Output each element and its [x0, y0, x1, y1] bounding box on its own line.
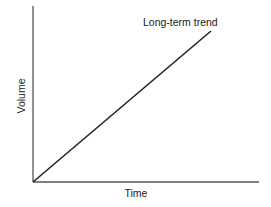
- trend-line: [33, 31, 211, 182]
- trend-annotation: Long-term trend: [143, 16, 218, 28]
- y-axis-label: Volume: [15, 78, 27, 113]
- trend-chart: Long-term trend Time Volume: [0, 0, 271, 207]
- x-axis-label: Time: [125, 187, 148, 199]
